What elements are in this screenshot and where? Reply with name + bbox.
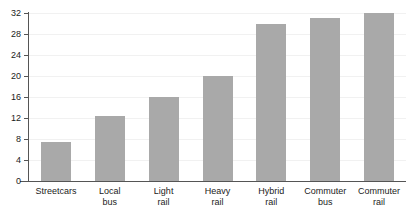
- y-axis-tick-mark: [24, 55, 29, 56]
- x-axis-tick-label-line: Commuter: [352, 186, 406, 197]
- x-axis-line: [20, 181, 406, 182]
- y-axis-tick-label: 24: [0, 51, 21, 60]
- y-axis-tick-label: 20: [0, 72, 21, 81]
- x-axis-tick-label: Lightrail: [137, 186, 191, 208]
- y-axis-tick-mark: [24, 139, 29, 140]
- bar: [256, 24, 286, 182]
- x-axis-tick-label: Hybridrail: [244, 186, 298, 208]
- x-axis-tick-label-line: Local: [83, 186, 137, 197]
- y-axis-tick-mark: [24, 118, 29, 119]
- x-axis-tick-label-line: rail: [137, 197, 191, 208]
- x-axis-tick-label-line: bus: [83, 197, 137, 208]
- x-axis-tick-label-line: rail: [352, 197, 406, 208]
- y-axis-tick-label: 4: [0, 156, 21, 165]
- gridline: [29, 55, 406, 56]
- x-axis-tick-label-line: Streetcars: [29, 186, 83, 197]
- bar-chart: 048121620242832 StreetcarsLocalbusLightr…: [0, 0, 416, 217]
- x-axis-tick-label: Commuterbus: [298, 186, 352, 208]
- x-axis-tick-label-line: rail: [244, 197, 298, 208]
- x-axis-tick-label-line: bus: [298, 197, 352, 208]
- y-axis-tick-mark: [24, 160, 29, 161]
- x-axis-tick-label-line: rail: [191, 197, 245, 208]
- bar: [149, 97, 179, 181]
- gridline: [29, 34, 406, 35]
- x-axis-tick-label: Streetcars: [29, 186, 83, 197]
- y-axis-tick-mark: [24, 13, 29, 14]
- bar: [95, 116, 125, 181]
- x-axis-tick-label: Heavyrail: [191, 186, 245, 208]
- x-axis-tick-label: Localbus: [83, 186, 137, 208]
- y-axis-tick-label: 0: [0, 177, 21, 186]
- x-axis-tick-label-line: Heavy: [191, 186, 245, 197]
- cropped-chart-title: [0, 0, 416, 7]
- y-axis-tick-label: 32: [0, 9, 21, 18]
- x-axis-tick-label: Commuterrail: [352, 186, 406, 208]
- y-axis-tick-mark: [24, 97, 29, 98]
- y-axis-tick-label: 16: [0, 93, 21, 102]
- y-axis-tick-mark: [24, 76, 29, 77]
- bar: [203, 76, 233, 181]
- x-axis-tick-label-line: Commuter: [298, 186, 352, 197]
- gridline: [29, 13, 406, 14]
- bar: [41, 142, 71, 181]
- x-axis-tick-label-line: Hybrid: [244, 186, 298, 197]
- plot-area: [29, 13, 406, 181]
- y-axis-tick-mark: [24, 34, 29, 35]
- x-axis-tick-label-line: Light: [137, 186, 191, 197]
- bar: [310, 18, 340, 181]
- y-axis-tick-label: 8: [0, 135, 21, 144]
- y-axis-tick-label: 28: [0, 30, 21, 39]
- y-axis-tick-mark: [24, 181, 29, 182]
- bar: [364, 13, 394, 181]
- y-axis-tick-label: 12: [0, 114, 21, 123]
